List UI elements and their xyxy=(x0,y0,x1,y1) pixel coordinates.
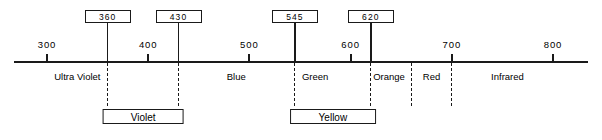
wavelength-callout: 545 xyxy=(272,10,318,23)
bracket-callout: Violet xyxy=(103,109,184,124)
axis-tick xyxy=(46,54,48,62)
axis-tick xyxy=(451,54,453,62)
axis-tick-label: 700 xyxy=(443,39,462,50)
spectrum-diagram: 300400500600700800 360430545620 Ultra Vi… xyxy=(0,0,602,140)
wavelength-callout: 620 xyxy=(348,10,394,23)
bracket-callout: Yellow xyxy=(290,109,376,124)
band-label: Ultra Violet xyxy=(54,71,100,82)
band-label: Orange xyxy=(373,71,405,82)
band-divider xyxy=(370,63,371,106)
axis-tick-label: 500 xyxy=(240,39,259,50)
callout-leader-line xyxy=(370,23,371,61)
band-label: Infrared xyxy=(491,71,524,82)
axis-tick-label: 800 xyxy=(544,39,563,50)
wavelength-callout: 360 xyxy=(85,10,131,23)
band-divider xyxy=(107,63,108,106)
band-divider xyxy=(178,63,179,106)
band-divider xyxy=(411,63,412,106)
wavelength-axis xyxy=(14,61,588,63)
axis-tick xyxy=(248,54,250,62)
callout-leader-line xyxy=(107,23,108,61)
band-label: Green xyxy=(302,71,328,82)
axis-tick xyxy=(552,54,554,62)
band-divider xyxy=(451,63,452,106)
band-label: Blue xyxy=(227,71,246,82)
axis-tick xyxy=(147,54,149,62)
callout-leader-line xyxy=(294,23,295,61)
band-divider xyxy=(294,63,295,106)
axis-tick-label: 400 xyxy=(139,39,158,50)
band-label: Red xyxy=(423,71,440,82)
axis-tick-label: 600 xyxy=(341,39,360,50)
axis-tick-label: 300 xyxy=(38,39,57,50)
axis-tick xyxy=(350,54,352,62)
callout-leader-line xyxy=(178,23,179,61)
wavelength-callout: 430 xyxy=(156,10,202,23)
